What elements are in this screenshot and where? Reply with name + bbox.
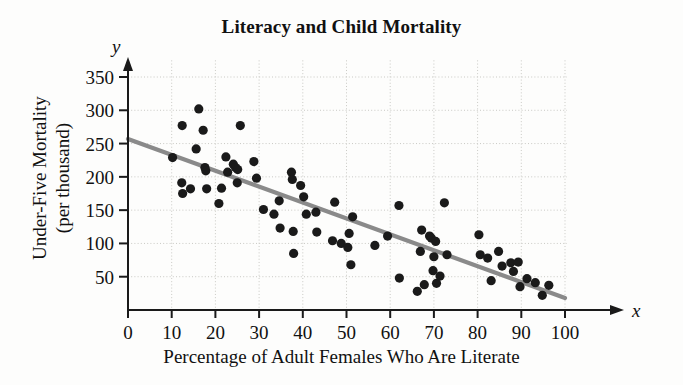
y-tick-label: 300 [86,100,115,121]
y-tick-label: 200 [86,167,115,188]
data-point [330,198,339,207]
data-point [199,126,208,135]
data-point [328,236,337,245]
data-point [178,121,187,130]
data-point [522,274,531,283]
y-axis-label-line2: (per thousand) [51,53,74,303]
data-point [497,261,506,270]
data-point [168,153,177,162]
y-tick-label: 250 [86,134,115,155]
data-point [417,226,426,235]
data-point [483,253,492,262]
data-point [312,228,321,237]
x-tick-label: 10 [162,322,181,343]
data-point [435,271,444,280]
data-point [288,175,297,184]
data-point [531,278,540,287]
data-point [348,212,357,221]
data-point [275,224,284,233]
y-axis-label: Under-Five Mortality (per thousand) [28,53,74,303]
data-point [440,198,449,207]
data-point [192,144,201,153]
data-point [474,230,483,239]
data-point [345,229,354,238]
chart-page: Literacy and Child Mortality 01020304050… [0,0,683,385]
y-tick-label: 100 [86,233,115,254]
data-point [223,168,232,177]
data-point [494,247,503,256]
data-point [383,232,392,241]
x-tick-label: 70 [424,322,443,343]
data-point [296,181,305,190]
data-point [201,166,210,175]
data-point [370,241,379,250]
y-axis-arrow [123,57,133,71]
data-point [289,227,298,236]
data-point [233,178,242,187]
data-point [515,282,524,291]
data-point [202,184,211,193]
data-point [299,192,308,201]
x-tick-label: 100 [551,322,580,343]
data-point [429,252,438,261]
data-point [252,174,261,183]
data-point [416,247,425,256]
x-axis-label: Percentage of Adult Females Who Are Lite… [0,346,683,368]
data-point [311,208,320,217]
y-tick-label: 350 [86,67,115,88]
x-tick-label: 30 [250,322,269,343]
data-point [395,273,404,282]
y-axis-label-line1: Under-Five Mortality [28,53,51,303]
data-point [269,210,278,219]
x-tick-label: 20 [206,322,225,343]
data-point [221,152,230,161]
data-point [343,243,352,252]
x-tick-label: 90 [512,322,531,343]
data-point [544,281,553,290]
x-tick-label: 50 [337,322,356,343]
data-point [289,249,298,258]
y-variable-symbol: y [110,36,121,57]
x-tick-label: 60 [381,322,400,343]
x-tick-label: 0 [123,322,133,343]
data-point [233,165,242,174]
data-point [275,196,284,205]
data-point [249,157,258,166]
data-point [413,287,422,296]
data-point [177,178,186,187]
data-point [217,184,226,193]
data-point [194,104,203,113]
data-point [394,201,403,210]
x-tick-label: 80 [468,322,487,343]
data-point [214,199,223,208]
x-tick-label: 40 [293,322,312,343]
y-tick-label: 50 [95,267,114,288]
data-point [178,189,187,198]
data-point [346,260,355,269]
data-point [442,250,451,259]
data-point [509,267,518,276]
x-variable-symbol: x [631,300,641,321]
data-point [538,291,547,300]
x-axis-arrow [610,305,624,315]
data-point [487,276,496,285]
data-point [186,184,195,193]
data-point [302,210,311,219]
y-tick-label: 150 [86,200,115,221]
data-point [236,121,245,130]
data-point [420,280,429,289]
data-point [431,237,440,246]
data-point [514,257,523,266]
data-point [259,205,268,214]
scatter-plot: 0102030405060708090100501001502002503003… [0,0,683,385]
